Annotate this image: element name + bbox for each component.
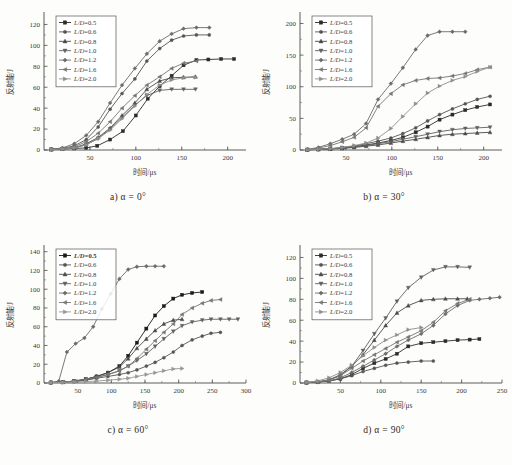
legend-label: L/D=1.2 [73,56,96,63]
y-axis-title: 反射能/J [261,302,271,328]
x-tick-label: 300 [241,387,252,395]
series-line [307,104,490,149]
legend-label: L/D=0.6 [329,261,353,268]
y-tick-label: 200 [286,20,297,28]
y-tick-label: 60 [33,323,41,331]
y-tick-label: 100 [30,286,41,294]
y-tick-label: 0 [37,146,41,154]
x-tick-label: 200 [222,154,233,162]
legend-label: L/D=0.6 [73,28,97,35]
x-tick-label: 100 [387,154,398,162]
y-tick-label: 150 [286,52,297,60]
y-axis-title: 反射能/J [5,302,15,328]
legend-label: L/D=1.6 [329,66,353,73]
x-tick-label: 150 [176,154,187,162]
x-tick-label: 200 [456,387,467,395]
legend-label: L/D=1.6 [73,299,97,306]
x-tick-label: 250 [207,387,218,395]
x-tick-label: 50 [337,387,345,395]
x-tick-label: 100 [376,387,387,395]
x-tick-label: 200 [173,387,184,395]
y-tick-label: 40 [289,338,297,346]
legend-label: L/D=0.6 [329,28,353,35]
plot-area-d: 02040608010012050100150200250时间/μs反射能/JL… [256,233,512,433]
series-line [51,89,195,149]
y-tick-label: 40 [33,105,41,113]
legend-label: L/D=0.8 [329,271,353,278]
x-tick-label: 50 [74,387,82,395]
legend-label: L/D=1.6 [329,299,353,306]
x-axis-title: 时间/μs [133,167,156,177]
plot-area-b: 05010015020050100150200时间/μs反射能/JL/D=0.5… [256,0,512,200]
y-tick-label: 0 [293,146,297,154]
subplot-panel-b: 05010015020050100150200时间/μs反射能/JL/D=0.5… [256,0,512,232]
y-tick-label: 60 [33,84,41,92]
x-tick-label: 50 [342,154,350,162]
legend-label: L/D=0.8 [329,38,353,45]
series-L-D-1-0 [49,88,197,152]
x-tick-label: 100 [106,387,117,395]
series-L-D-2-0 [49,367,184,385]
legend: L/D=0.5L/D=0.6L/D=0.8L/D=1.0L/D=1.2L/D=1… [312,16,372,87]
x-axis-title: 时间/μs [133,400,156,410]
y-tick-label: 120 [30,267,41,275]
y-tick-label: 80 [33,63,41,71]
legend-label: L/D=2.0 [73,308,97,315]
x-tick-label: 250 [497,387,508,395]
subplot-caption-a: a) α = 0° [0,192,256,202]
figure-root: 02040608010012050100150200时间/μs反射能/JL/D=… [0,0,512,465]
y-tick-label: 60 [289,317,297,325]
legend-label: L/D=0.5 [73,252,97,259]
y-tick-label: 100 [30,42,41,50]
legend-label: L/D=1.2 [73,289,96,296]
legend-label: L/D=1.0 [329,47,353,54]
x-axis-title: 时间/μs [389,167,412,177]
plot-area-c: 02040608010012014050100150200250300时间/μs… [0,233,256,433]
y-tick-label: 120 [30,21,41,29]
y-tick-label: 20 [289,358,297,366]
legend-label: L/D=0.5 [329,19,353,26]
legend-label: L/D=0.5 [73,19,97,26]
y-tick-label: 80 [33,304,41,312]
legend-label: L/D=1.2 [329,289,352,296]
series-L-D-0-8 [49,317,184,384]
x-tick-label: 150 [140,387,151,395]
subplot-caption-d: d) α = 90° [256,425,512,435]
y-tick-label: 120 [286,254,297,262]
y-tick-label: 80 [289,296,297,304]
x-tick-label: 150 [432,154,443,162]
y-tick-label: 100 [286,275,297,283]
legend-label: L/D=2.0 [329,308,353,315]
subplot-caption-b: b) α = 30° [256,192,512,202]
series-line [51,319,182,382]
y-tick-label: 20 [33,361,41,369]
chart-svg-c: 02040608010012014050100150200250300时间/μs… [0,233,256,433]
chart-svg-a: 02040608010012050100150200时间/μs反射能/JL/D=… [0,0,256,200]
y-tick-label: 100 [286,83,297,91]
subplot-panel-a: 02040608010012050100150200时间/μs反射能/JL/D=… [0,0,256,232]
legend-label: L/D=1.0 [73,47,97,54]
legend-label: L/D=0.8 [73,271,97,278]
legend-label: L/D=0.6 [73,261,97,268]
plot-area-a: 02040608010012050100150200时间/μs反射能/JL/D=… [0,0,256,200]
x-axis-title: 时间/μs [389,400,412,410]
series-line [306,361,433,383]
y-tick-label: 40 [33,342,41,350]
y-axis-title: 反射能/J [261,69,271,95]
series-line [51,77,195,150]
y-tick-label: 0 [37,379,41,387]
subplot-panel-c: 02040608010012014050100150200250300时间/μs… [0,233,256,465]
y-tick-label: 50 [289,115,297,123]
legend-label: L/D=0.8 [73,38,97,45]
x-tick-label: 100 [131,154,142,162]
legend: L/D=0.5L/D=0.6L/D=0.8L/D=1.0L/D=1.2L/D=1… [312,249,372,320]
y-axis-title: 反射能/J [5,69,15,95]
legend-label: L/D=1.2 [329,56,352,63]
x-tick-label: 200 [478,154,489,162]
y-tick-label: 0 [293,379,297,387]
legend-label: L/D=2.0 [329,75,353,82]
y-tick-label: 140 [30,248,41,256]
chart-svg-d: 02040608010012050100150200250时间/μs反射能/JL… [256,233,512,433]
legend-label: L/D=2.0 [73,75,97,82]
legend-label: L/D=1.6 [73,66,97,73]
